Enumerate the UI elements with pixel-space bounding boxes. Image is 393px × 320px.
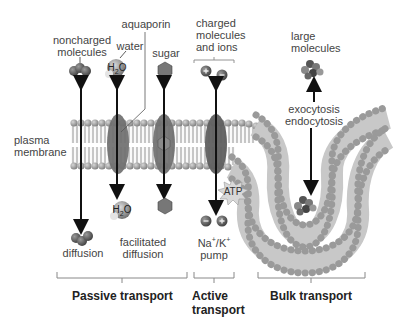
active-bracket — [194, 272, 234, 283]
plasma-label-line1: plasma — [14, 134, 67, 146]
endocytosis-label: endocytosis — [282, 115, 346, 127]
diffusion-label: diffusion — [58, 247, 108, 259]
aquaporin-label: aquaporin — [120, 18, 172, 30]
plasma-label-line2: membrane — [14, 146, 67, 158]
charged-bracket — [194, 57, 234, 63]
sugar-label: sugar — [151, 47, 181, 59]
bulk-transport-label: Bulk transport — [266, 289, 356, 303]
plasma-membrane-label: plasma membrane — [14, 134, 67, 158]
noncharged-molecule-top-icon — [69, 63, 91, 76]
facilitated-diffusion-label: facilitated diffusion — [116, 236, 170, 260]
large-label-line2: molecules — [291, 42, 341, 54]
noncharged-molecule-bottom-icon — [71, 231, 93, 246]
charged-label-line2: molecules — [196, 29, 246, 41]
facilitated-line1: facilitated — [116, 236, 170, 248]
charged-label-line3: and ions — [196, 41, 246, 53]
charged-label-line1: charged — [196, 17, 246, 29]
exocytosis-label: exocytosis — [284, 103, 344, 115]
pump-label-line2: pump — [194, 249, 234, 261]
negative-ion-bottom-icon — [201, 216, 212, 227]
atp-label: ATP — [220, 186, 246, 198]
large-molecule-top-icon — [301, 60, 324, 80]
large-label-line1: large — [291, 30, 341, 42]
water-label: water — [116, 40, 144, 52]
h2o-top-label: H2O — [104, 62, 130, 78]
pump-label-line1: Na+/K+ — [194, 234, 234, 249]
facilitated-line2: diffusion — [116, 248, 170, 260]
negative-ion-top-icon — [217, 70, 228, 81]
positive-ion-top-icon — [201, 66, 212, 77]
large-molecule-vesicle-icon — [294, 196, 317, 216]
noncharged-label-line2: molecules — [52, 46, 112, 58]
h2o-bottom-label: H2O — [109, 204, 135, 220]
charged-label: charged molecules and ions — [196, 17, 246, 53]
noncharged-label-line1: noncharged — [52, 34, 112, 46]
water-pointer — [120, 51, 126, 58]
passive-bracket — [57, 272, 187, 283]
passive-transport-label: Passive transport — [72, 289, 172, 303]
noncharged-label: noncharged molecules — [52, 34, 112, 58]
sugar-bottom-icon — [158, 198, 172, 214]
positive-ion-bottom-icon — [217, 216, 228, 227]
active-line2: transport — [192, 303, 245, 317]
pump-label: Na+/K+ pump — [194, 234, 234, 261]
large-molecules-label: large molecules — [291, 30, 341, 54]
active-line1: Active — [192, 289, 245, 303]
active-transport-label: Active transport — [192, 289, 245, 317]
sugar-top-icon — [158, 62, 172, 78]
